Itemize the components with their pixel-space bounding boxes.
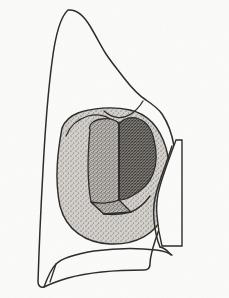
paper-grain-overlay	[0, 0, 229, 298]
figure-root	[0, 0, 229, 298]
tooth-diagram-svg	[0, 0, 229, 298]
